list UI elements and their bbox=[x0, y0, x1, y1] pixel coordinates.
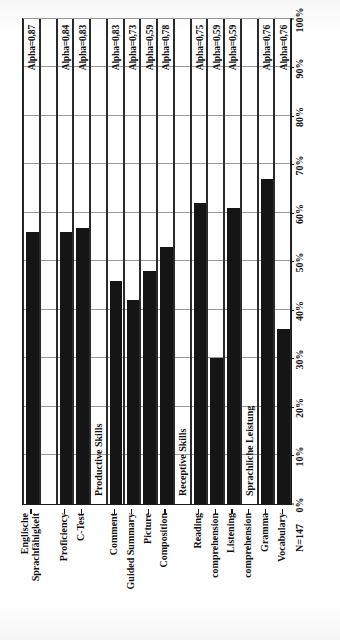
alpha-annotation: Alpha=0,75 bbox=[193, 25, 204, 70]
alpha-annotation: Alpha=0,59 bbox=[210, 25, 221, 70]
category-label: comprehension bbox=[210, 513, 220, 578]
alpha-annotation: Alpha=0,78 bbox=[160, 25, 171, 70]
value-tick-label: 70% bbox=[294, 156, 305, 176]
bar-row: Alpha=0,59 bbox=[140, 19, 157, 504]
alpha-annotation: Alpha=0,59 bbox=[143, 25, 154, 70]
category-tick-mark bbox=[282, 509, 283, 514]
category-tick-mark bbox=[64, 509, 65, 514]
bar-row: Alpha=0,75 bbox=[191, 19, 208, 504]
bar-row: Alpha=0,83 bbox=[73, 19, 90, 504]
category-label: Comment bbox=[109, 513, 119, 555]
bar-row bbox=[40, 19, 57, 504]
bar bbox=[261, 179, 273, 504]
category-tick-mark bbox=[198, 509, 199, 514]
alpha-annotation: Alpha=0,76 bbox=[260, 25, 271, 70]
value-tick-mark bbox=[290, 67, 294, 68]
category-label: Gramma bbox=[260, 513, 270, 552]
bar-row: Alpha=0,84 bbox=[57, 19, 74, 504]
category-tick-mark bbox=[231, 509, 232, 514]
value-tick-mark bbox=[290, 261, 294, 262]
alpha-annotation: Alpha=0,76 bbox=[277, 25, 288, 70]
value-tick-label: 50% bbox=[294, 253, 305, 273]
category-tick-mark bbox=[131, 509, 132, 514]
bar-row: Sprachliche Leistung bbox=[241, 19, 258, 504]
category-tick-mark bbox=[30, 509, 31, 514]
value-tick-label: 60% bbox=[294, 204, 305, 224]
alpha-annotation: Alpha=0,83 bbox=[76, 25, 87, 70]
category-label: Reading bbox=[193, 513, 203, 549]
bar bbox=[194, 203, 206, 504]
value-tick-mark bbox=[290, 310, 294, 311]
bar-row: Alpha=0,59 bbox=[224, 19, 241, 504]
bar-row: Alpha=0,76 bbox=[258, 19, 275, 504]
value-tick-label: 20% bbox=[294, 398, 305, 418]
value-tick-label: 90% bbox=[294, 59, 305, 79]
group-label: Productive Skills bbox=[93, 424, 104, 496]
category-label: Composition bbox=[159, 513, 169, 567]
value-tick-label: 40% bbox=[294, 301, 305, 321]
bar-row: Alpha=0,73 bbox=[124, 19, 141, 504]
alpha-annotation: Alpha=0,73 bbox=[126, 25, 137, 70]
bar bbox=[143, 271, 155, 504]
category-label: Englische Sprachfähigkeit bbox=[20, 513, 40, 581]
value-tick-mark bbox=[290, 455, 294, 456]
value-tick-mark bbox=[290, 116, 294, 117]
bar-row: Productive Skills bbox=[90, 19, 107, 504]
group-label: Sprachliche Leistung bbox=[244, 406, 255, 496]
value-tick-mark bbox=[290, 164, 294, 165]
category-label: Listening bbox=[226, 513, 236, 553]
bar bbox=[210, 359, 222, 505]
value-tick-label: 80% bbox=[294, 107, 305, 127]
bar-row: Alpha=0,83 bbox=[107, 19, 124, 504]
value-tick-label: 30% bbox=[294, 350, 305, 370]
category-label: Proficiency bbox=[59, 513, 69, 561]
value-tick-label: 10% bbox=[294, 447, 305, 467]
category-label: C-Test bbox=[76, 513, 86, 541]
category-axis: Englische SprachfähigkeitProficiencyC-Te… bbox=[22, 509, 292, 640]
bar bbox=[160, 247, 172, 504]
category-tick-mark bbox=[215, 509, 216, 514]
alpha-annotation: Alpha=0,84 bbox=[59, 25, 70, 70]
category-label: Guided Summary bbox=[126, 513, 136, 589]
category-label: Picture bbox=[143, 513, 153, 544]
value-tick-mark bbox=[290, 504, 294, 505]
bar-row: Alpha=0,76 bbox=[274, 19, 291, 504]
bar-series: Alpha=0,87Alpha=0,84Alpha=0,83Productive… bbox=[23, 19, 291, 504]
value-tick-label: 0% bbox=[294, 498, 305, 513]
category-tick-mark bbox=[148, 509, 149, 514]
bar bbox=[76, 228, 88, 504]
alpha-annotation: Alpha=0,87 bbox=[26, 25, 37, 70]
category-tick-mark bbox=[265, 509, 266, 514]
group-label: Receptive Skills bbox=[177, 429, 188, 497]
category-label: Vocabulary bbox=[277, 513, 287, 562]
alpha-annotation: Alpha=0,59 bbox=[227, 25, 238, 70]
category-tick-mark bbox=[114, 509, 115, 514]
value-axis: 0%10%20%30%40%50%60%70%80%90%100% bbox=[294, 18, 320, 505]
bar-row: Alpha=0,59 bbox=[207, 19, 224, 504]
value-tick-mark bbox=[290, 213, 294, 214]
chart-plot-wrapper: Englische SprachfähigkeitProficiencyC-Te… bbox=[0, 0, 340, 640]
category-label: comprehension bbox=[243, 513, 253, 578]
value-tick-mark bbox=[290, 358, 294, 359]
bar-row: Alpha=0,87 bbox=[23, 19, 40, 504]
alpha-annotation: Alpha=0,83 bbox=[110, 25, 121, 70]
bar bbox=[277, 329, 289, 504]
bar-row: Alpha=0,78 bbox=[157, 19, 174, 504]
value-tick-mark bbox=[290, 19, 294, 20]
sample-size-label: N=147 bbox=[294, 524, 305, 552]
bar bbox=[26, 232, 38, 504]
category-tick-mark bbox=[248, 509, 249, 514]
bar bbox=[127, 300, 139, 504]
bar bbox=[60, 232, 72, 504]
value-tick-mark bbox=[290, 407, 294, 408]
bar bbox=[227, 208, 239, 504]
category-tick-mark bbox=[164, 509, 165, 514]
chart-stage: Englische SprachfähigkeitProficiencyC-Te… bbox=[0, 0, 340, 640]
value-tick-label: 100% bbox=[294, 8, 305, 33]
category-tick-mark bbox=[81, 509, 82, 514]
bar-row: Receptive Skills bbox=[174, 19, 191, 504]
bar bbox=[110, 281, 122, 504]
plot-area: Alpha=0,87Alpha=0,84Alpha=0,83Productive… bbox=[22, 18, 292, 505]
